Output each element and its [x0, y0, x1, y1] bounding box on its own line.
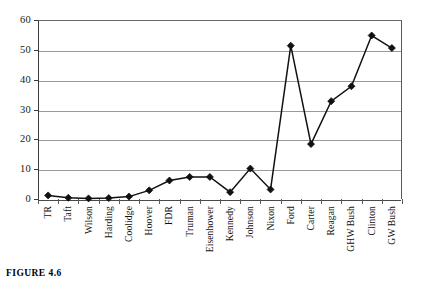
x-tick-mark-15 [341, 199, 342, 204]
x-label-wrap-gw-bush: GW Bush [385, 206, 399, 284]
x-tick-mark-9 [220, 199, 221, 204]
x-tick-mark-4 [119, 199, 120, 204]
x-tick-label-johnson: Johnson [245, 206, 255, 238]
y-tick-label-10: 10 [20, 164, 31, 174]
x-tick-label-gw-bush: GW Bush [387, 206, 397, 245]
series-line [48, 36, 392, 199]
x-tick-label-ghw-bush: GHW Bush [346, 206, 356, 252]
data-point-clinton [368, 32, 375, 39]
x-tick-mark-11 [260, 199, 261, 204]
data-point-hoover [146, 187, 153, 194]
data-point-gw-bush [388, 45, 395, 52]
y-tick-label-0: 0 [26, 194, 31, 204]
x-label-wrap-wilson: Wilson [82, 206, 96, 284]
line-series [38, 20, 402, 199]
x-tick-label-carter: Carter [306, 206, 316, 231]
x-tick-label-nixon: Nixon [266, 206, 276, 230]
x-label-wrap-eisenhower: Eisenhower [203, 206, 217, 284]
x-tick-mark-0 [38, 199, 39, 204]
x-tick-mark-13 [301, 199, 302, 204]
y-tick-label-20: 20 [20, 134, 31, 144]
data-point-tr [45, 192, 52, 199]
x-tick-label-taft: Taft [63, 206, 73, 222]
x-label-wrap-ghw-bush: GHW Bush [344, 206, 358, 284]
x-tick-mark-7 [180, 199, 181, 204]
x-label-wrap-hoover: Hoover [142, 206, 156, 284]
x-label-wrap-johnson: Johnson [243, 206, 257, 284]
x-label-wrap-reagan: Reagan [324, 206, 338, 284]
x-label-wrap-kennedy: Kennedy [223, 206, 237, 284]
x-tick-label-hoover: Hoover [144, 206, 154, 235]
x-axis: TRTaftWilsonHardingCoolidgeHooverFDRTrum… [38, 199, 402, 289]
x-tick-mark-14 [321, 199, 322, 204]
x-tick-mark-6 [159, 199, 160, 204]
x-tick-label-wilson: Wilson [84, 206, 94, 234]
x-tick-label-ford: Ford [286, 206, 296, 225]
x-tick-mark-8 [200, 199, 201, 204]
x-tick-mark-1 [58, 199, 59, 204]
x-label-wrap-nixon: Nixon [264, 206, 278, 284]
x-tick-mark-3 [99, 199, 100, 204]
y-tick-label-30: 30 [20, 105, 31, 115]
x-tick-label-clinton: Clinton [367, 206, 377, 236]
x-tick-label-reagan: Reagan [326, 206, 336, 235]
x-label-wrap-harding: Harding [102, 206, 116, 284]
figure-container: 0102030405060 TRTaftWilsonHardingCoolidg… [0, 0, 422, 289]
y-axis: 0102030405060 [0, 0, 38, 220]
data-point-ford [287, 42, 294, 49]
x-tick-mark-2 [78, 199, 79, 204]
x-label-wrap-ford: Ford [284, 206, 298, 284]
x-tick-label-tr: TR [43, 206, 53, 218]
x-tick-mark-18 [402, 199, 403, 204]
x-tick-label-harding: Harding [104, 206, 114, 238]
x-tick-mark-17 [382, 199, 383, 204]
figure-caption: FIGURE 4.6 [6, 268, 62, 278]
x-label-wrap-truman: Truman [183, 206, 197, 284]
data-point-truman [186, 173, 193, 180]
x-tick-label-kennedy: Kennedy [225, 206, 235, 241]
y-tick-label-40: 40 [20, 75, 31, 85]
x-tick-label-eisenhower: Eisenhower [205, 206, 215, 252]
x-tick-label-truman: Truman [185, 206, 195, 237]
x-tick-mark-12 [281, 199, 282, 204]
x-label-wrap-taft: Taft [61, 206, 75, 284]
x-label-wrap-fdr: FDR [162, 206, 176, 284]
x-tick-mark-5 [139, 199, 140, 204]
data-point-fdr [166, 177, 173, 184]
x-tick-mark-16 [362, 199, 363, 204]
x-label-wrap-coolidge: Coolidge [122, 206, 136, 284]
x-tick-label-fdr: FDR [164, 206, 174, 225]
y-tick-label-50: 50 [20, 45, 31, 55]
x-tick-label-coolidge: Coolidge [124, 206, 134, 242]
y-tick-label-60: 60 [20, 15, 31, 25]
x-label-wrap-clinton: Clinton [365, 206, 379, 284]
x-label-wrap-carter: Carter [304, 206, 318, 284]
x-tick-mark-10 [240, 199, 241, 204]
data-point-carter [308, 141, 315, 148]
